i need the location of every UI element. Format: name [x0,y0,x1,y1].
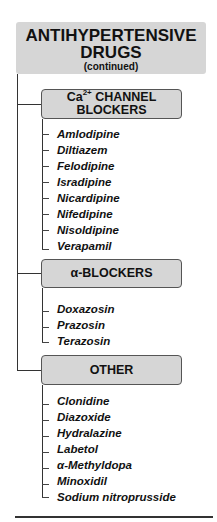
category-box-other: OTHER [41,355,182,385]
tick [42,468,49,469]
drug-item: Isradipine [57,175,111,189]
drug-item: Sodium nitroprusside [57,490,176,504]
tick [42,484,49,485]
tick [42,311,49,312]
category-label: OTHER [90,364,134,377]
tick [42,182,49,183]
drug-item: Doxazosin [57,302,115,316]
tick [42,166,49,167]
category-label-line2: BLOCKERS [76,104,146,117]
drug-item: Diltiazem [57,143,108,157]
main-title-box: ANTIHYPERTENSIVE DRUGS (continued) [16,22,206,74]
drug-item: Terazosin [57,334,110,348]
tick [42,214,49,215]
branch-line-ca [17,104,41,105]
drug-item: Verapamil [57,239,112,253]
tick [42,436,49,437]
drug-item: Diazoxide [57,410,111,424]
tick [42,404,49,405]
branch-line-other [17,370,41,371]
drug-item: Labetol [57,442,98,456]
trunk-line [17,74,18,371]
tick [42,342,49,343]
main-title-line2: DRUGS [16,44,206,61]
drug-item: α-Methyldopa [57,458,132,472]
sub-trunk-other [42,385,43,497]
tick [42,230,49,231]
tick [42,150,49,151]
drug-item: Clonidine [57,394,109,408]
category-box-alpha-blockers: α-BLOCKERS [41,259,182,288]
drug-item: Felodipine [57,159,115,173]
sub-trunk-alpha [42,288,43,343]
drug-item: Nisoldipine [57,223,119,237]
tick [42,134,49,135]
tick [42,497,49,498]
tick [42,327,49,328]
tick [42,249,49,250]
main-subtitle: (continued) [16,61,206,72]
main-title-line1: ANTIHYPERTENSIVE [16,27,206,44]
branch-line-alpha [17,273,41,274]
drug-item: Nicardipine [57,191,120,205]
bottom-rule [15,516,213,518]
drug-item: Hydralazine [57,426,122,440]
drug-item: Amlodipine [57,127,120,141]
drug-item: Minoxidil [57,474,107,488]
tick [42,198,49,199]
tick [42,452,49,453]
category-label: α-BLOCKERS [71,267,153,280]
tick [42,420,49,421]
drug-item: Prazosin [57,318,105,332]
drug-item: Nifedipine [57,207,113,221]
category-box-ca-channel-blockers: Ca2+ CHANNEL BLOCKERS [41,89,182,119]
